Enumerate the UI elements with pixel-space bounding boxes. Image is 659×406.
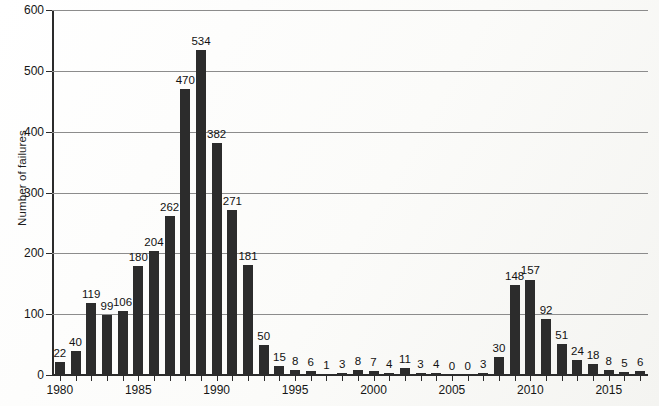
gridline-500 <box>52 71 648 72</box>
x-axis-tick-label: 1980 <box>46 383 73 397</box>
bar-value-label: 30 <box>482 343 517 355</box>
y-axis-tick-label: 500 <box>0 64 44 78</box>
bar-value-label: 6 <box>623 357 658 369</box>
y-axis-title: Number of failures <box>16 98 28 258</box>
x-axis-tick-mark <box>217 375 218 381</box>
y-axis-tick-label: 600 <box>0 3 44 17</box>
x-axis-tick-label: 2015 <box>595 383 622 397</box>
x-axis-tick-mark <box>295 375 296 381</box>
bar-value-label: 40 <box>58 337 93 349</box>
x-axis-tick-mark <box>421 375 422 381</box>
bar-value-label: 271 <box>215 196 250 208</box>
bar-value-label: 534 <box>184 36 219 48</box>
bar-value-label: 262 <box>152 202 187 214</box>
bar-value-label: 51 <box>544 330 579 342</box>
gridline-600 <box>52 10 648 11</box>
bar <box>118 311 128 375</box>
y-axis-tick-label: 300 <box>0 186 44 200</box>
x-axis-tick-mark <box>436 375 437 381</box>
x-axis-tick-mark <box>577 375 578 381</box>
x-axis-tick-mark <box>248 375 249 381</box>
x-axis-tick-mark <box>60 375 61 381</box>
bar-value-label: 3 <box>466 359 501 371</box>
plot-area: 2240119991061802042624705343822711815015… <box>52 10 648 375</box>
x-axis-tick-mark <box>154 375 155 381</box>
x-axis-tick-mark <box>358 375 359 381</box>
x-axis-tick-mark <box>107 375 108 381</box>
x-axis-tick-mark <box>170 375 171 381</box>
bar-value-label: 204 <box>137 237 172 249</box>
bar <box>180 89 190 375</box>
y-axis-tick-label: 100 <box>0 307 44 321</box>
x-axis-tick-mark <box>530 375 531 381</box>
bar <box>243 265 253 375</box>
x-axis-tick-mark <box>593 375 594 381</box>
bar-value-label: 106 <box>105 297 140 309</box>
bar <box>227 210 237 375</box>
x-axis-tick-label: 2005 <box>439 383 466 397</box>
bar <box>102 315 112 375</box>
x-axis-tick-label: 1985 <box>125 383 152 397</box>
x-axis-tick-mark <box>326 375 327 381</box>
bar <box>149 251 159 375</box>
x-axis-tick-mark <box>279 375 280 381</box>
x-axis-tick-mark <box>562 375 563 381</box>
x-axis-tick-mark <box>389 375 390 381</box>
bar-value-label: 180 <box>121 252 156 264</box>
x-axis-tick-mark <box>91 375 92 381</box>
x-axis-tick-mark <box>640 375 641 381</box>
bar-value-label: 470 <box>168 75 203 87</box>
bar <box>212 143 222 375</box>
x-axis-tick-mark <box>311 375 312 381</box>
gridline-300 <box>52 193 648 194</box>
bar-value-label: 92 <box>529 305 564 317</box>
y-axis-tick-label: 0 <box>0 368 44 382</box>
x-axis: 19801985199019952000200520102015 <box>52 375 648 406</box>
bar-value-label: 181 <box>231 251 266 263</box>
bar-value-label: 382 <box>199 129 234 141</box>
y-axis-tick-label: 200 <box>0 246 44 260</box>
bar-value-label: 50 <box>246 331 281 343</box>
bar <box>510 285 520 375</box>
bar-value-label: 119 <box>74 289 109 301</box>
x-axis-tick-mark <box>499 375 500 381</box>
x-axis-tick-mark <box>264 375 265 381</box>
x-axis-tick-mark <box>374 375 375 381</box>
gridline-400 <box>52 132 648 133</box>
x-axis-tick-mark <box>468 375 469 381</box>
x-axis-tick-mark <box>546 375 547 381</box>
x-axis-tick-mark <box>405 375 406 381</box>
x-axis-tick-mark <box>76 375 77 381</box>
bar <box>133 266 143 376</box>
x-axis-tick-mark <box>483 375 484 381</box>
x-axis-tick-label: 2000 <box>360 383 387 397</box>
x-axis-tick-mark <box>609 375 610 381</box>
x-axis-tick-mark <box>452 375 453 381</box>
x-axis-tick-mark <box>515 375 516 381</box>
x-axis-tick-label: 1995 <box>282 383 309 397</box>
x-axis-tick-mark <box>232 375 233 381</box>
x-axis-tick-mark <box>138 375 139 381</box>
x-axis-tick-mark <box>201 375 202 381</box>
bar <box>196 50 206 375</box>
bar <box>572 360 582 375</box>
x-axis-tick-label: 1990 <box>203 383 230 397</box>
x-axis-tick-label: 2010 <box>517 383 544 397</box>
x-axis-tick-mark <box>624 375 625 381</box>
bar <box>541 319 551 375</box>
x-axis-tick-mark <box>185 375 186 381</box>
bar <box>55 362 65 375</box>
y-axis-tick-label: 400 <box>0 125 44 139</box>
x-axis-tick-mark <box>342 375 343 381</box>
bar-value-label: 22 <box>43 348 78 360</box>
bar <box>525 280 535 376</box>
bar-value-label: 157 <box>513 265 548 277</box>
x-axis-tick-mark <box>123 375 124 381</box>
bar-chart-figure: Number of failures 0100200300400500600 2… <box>0 0 659 406</box>
